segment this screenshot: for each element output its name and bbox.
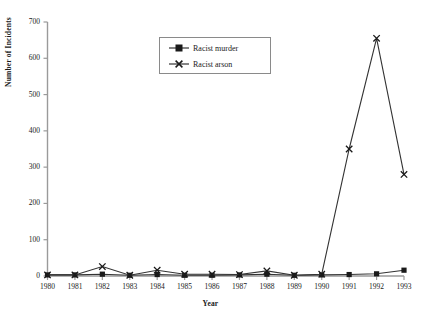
y-axis-tick-label: 400 — [6, 126, 40, 135]
x-axis-tick-label: 1990 — [307, 282, 337, 291]
x-axis-tick-label: 1986 — [197, 282, 227, 291]
x-axis-tick-label: 1985 — [170, 282, 200, 291]
data-point-marker — [374, 271, 379, 276]
y-axis-tick-label: 0 — [6, 271, 40, 280]
x-axis-tick-label: 1983 — [115, 282, 145, 291]
y-axis-tick-label: 200 — [6, 198, 40, 207]
data-point-marker — [347, 272, 352, 277]
y-axis-tick-label: 300 — [6, 162, 40, 171]
x-axis-tick-label: 1987 — [224, 282, 254, 291]
x-axis-tick-label: 1981 — [60, 282, 90, 291]
x-axis-tick-label: 1984 — [142, 282, 172, 291]
x-axis-tick-label: 1989 — [279, 282, 309, 291]
x-axis-tick-label: 1988 — [252, 282, 282, 291]
x-axis-tick-label: 1992 — [362, 282, 392, 291]
y-axis-tick-label: 600 — [6, 53, 40, 62]
x-axis-tick-label: 1980 — [33, 282, 63, 291]
data-point-marker — [401, 268, 406, 273]
y-axis-tick-label: 700 — [6, 17, 40, 26]
legend-label-racist-murder: Racist murder — [193, 44, 238, 53]
x-axis-title: Year — [0, 299, 421, 308]
x-axis-tick-label: 1991 — [334, 282, 364, 291]
x-axis-tick-label: 1993 — [389, 282, 419, 291]
x-axis-tick-label: 1982 — [87, 282, 117, 291]
y-axis-tick-label: 100 — [6, 235, 40, 244]
square-marker-icon — [168, 42, 190, 54]
legend: Racist murder Racist arson — [159, 37, 271, 74]
data-point-marker — [100, 272, 105, 277]
y-axis-tick-label: 500 — [6, 90, 40, 99]
cross-marker-icon — [168, 58, 190, 70]
chart-container: Number of Incidents Year 010020030040050… — [0, 0, 421, 318]
data-point-marker — [99, 263, 105, 269]
legend-label-racist-arson: Racist arson — [193, 60, 232, 69]
legend-item-racist-arson: Racist arson — [168, 57, 232, 71]
legend-item-racist-murder: Racist murder — [168, 41, 238, 55]
